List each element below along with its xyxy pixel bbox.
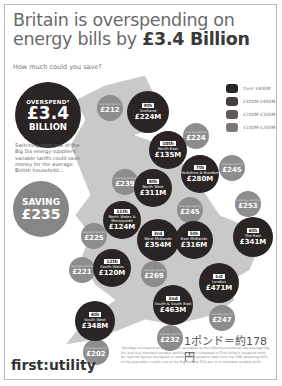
region-north-wales: 11thNorth Wales & Merseyside£124M — [103, 201, 141, 239]
footnote: *Average overspend on energy bills calcu… — [121, 346, 271, 364]
region-scotland: 9thScotland£224M — [127, 91, 169, 133]
region-the-east: 6thThe East£341M — [233, 217, 273, 257]
region-name: North Wales & Merseyside — [103, 215, 141, 223]
region-amount: £348M — [82, 322, 108, 330]
title-line-2: energy bills by — [13, 29, 142, 49]
region-amount: £224M — [135, 113, 161, 121]
legend-label: £300M-£400M — [243, 99, 275, 104]
region-south-wales: 12thSouth Wales£120M — [93, 249, 131, 287]
region-north-west: 8thNorth West£311M — [134, 169, 172, 207]
region-amount: £120M — [99, 269, 125, 277]
blurb-text: Switching from one of the Big Six energy… — [15, 142, 87, 173]
saving-circle-yorkshire: average saving£245 — [219, 155, 245, 181]
saving-circle-west-midlands: average saving£269 — [141, 261, 167, 287]
legend-label: £100M-£200M — [243, 125, 275, 130]
subtitle: How much could you save? — [13, 63, 102, 71]
region-south-south-east: 2ndSouth & South East£463M — [153, 285, 193, 325]
saving-circle-north-east: average saving£224 — [183, 123, 209, 149]
coin-stack-icon — [226, 123, 238, 132]
coin-stack-icon — [226, 110, 238, 119]
saving-value: £239 — [115, 180, 134, 188]
legend-label: Over £400M — [243, 86, 271, 91]
saving-circle-scotland: average saving£212 — [97, 95, 123, 121]
overspend-amount: £3.4 — [27, 105, 69, 122]
overspend-badge: OVERSPEND* £3.4 BILLION — [15, 82, 81, 148]
region-east-midlands: 5thEast Midlands£316M — [175, 221, 213, 259]
saving-amount: £235 — [22, 207, 61, 221]
saving-value: £224 — [186, 134, 205, 142]
saving-circle-north-wales: average saving£225 — [81, 223, 107, 249]
region-amount: £316M — [181, 241, 207, 249]
infographic-frame: Britain is overspending on energy bills … — [4, 4, 277, 380]
legend-label: £200M-£300M — [243, 112, 275, 117]
saving-value: £245 — [180, 208, 199, 216]
region-london: 1stLondon£471M — [199, 263, 239, 303]
saving-circle-the-east: average saving£253 — [235, 191, 261, 217]
region-north-east: 10thNorth East£135M — [149, 131, 187, 169]
coin-stack-icon — [226, 84, 238, 93]
region-south-west: 4thSouth West£348M — [75, 301, 115, 341]
saving-value: £245 — [222, 166, 241, 174]
legend-item: £100M-£200M — [226, 121, 275, 134]
region-amount: £341M — [240, 238, 266, 246]
region-yorkshire: 7thYorkshire & Humber£280M — [181, 155, 219, 193]
region-amount: £124M — [109, 223, 135, 231]
region-amount: £471M — [206, 284, 232, 292]
region-amount: £354M — [145, 241, 171, 249]
saving-value: £221 — [72, 268, 91, 276]
saving-circle-london: average saving£247 — [209, 305, 235, 331]
title-line-1: Britain is overspending on — [13, 11, 250, 30]
legend: Over £400M £300M-£400M £200M-£300M £100M… — [226, 82, 275, 134]
region-west-midlands: 3rdWest Midlands£354M — [137, 219, 179, 261]
saving-value: £225 — [84, 234, 103, 242]
legend-item: £200M-£300M — [226, 108, 275, 121]
saving-circle-east-midlands: average saving£245 — [177, 197, 203, 223]
saving-value: £269 — [144, 272, 163, 280]
saving-value: £232 — [160, 336, 179, 344]
legend-item: £300M-£400M — [226, 95, 275, 108]
saving-badge: SAVING £235 — [13, 181, 69, 237]
title-highlight: £3.4 Billion — [142, 29, 249, 49]
region-amount: £135M — [155, 151, 181, 159]
saving-value: £212 — [100, 106, 119, 114]
coin-stack-icon — [226, 97, 238, 106]
region-amount: £280M — [187, 175, 213, 183]
saving-circle-south-wales: average saving£221 — [69, 257, 95, 283]
region-amount: £463M — [160, 306, 186, 314]
region-amount: £311M — [140, 189, 166, 197]
overspend-unit: BILLION — [29, 122, 67, 132]
page-title: Britain is overspending on energy bills … — [13, 11, 250, 49]
saving-value: £253 — [238, 202, 257, 210]
brand-logo: first:utility — [11, 357, 96, 373]
legend-item: Over £400M — [226, 82, 275, 95]
saving-value: £247 — [212, 316, 231, 324]
